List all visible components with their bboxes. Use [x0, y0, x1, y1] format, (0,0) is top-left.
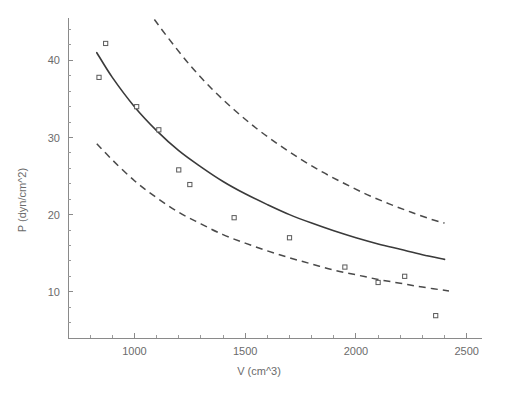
data-point-marker [287, 236, 291, 240]
scatter-plot-svg: 1000150020002500 10203040 V (cm^3) P (dy… [0, 0, 519, 404]
data-point-marker [403, 274, 407, 278]
plot-background [0, 0, 519, 404]
data-point-marker [188, 182, 192, 186]
y-tick-label: 10 [48, 286, 60, 298]
data-point-marker [343, 265, 347, 269]
data-point-marker [232, 216, 236, 220]
data-point-marker [97, 75, 101, 79]
x-tick-label: 2000 [344, 345, 368, 357]
y-tick-label: 30 [48, 132, 60, 144]
data-point-marker [104, 41, 108, 45]
x-tick-label: 1500 [233, 345, 257, 357]
y-tick-label: 20 [48, 209, 60, 221]
data-point-marker [434, 314, 438, 318]
y-axis-title: P (dyn/cm^2) [16, 168, 28, 232]
data-point-marker [177, 168, 181, 172]
data-point-marker [135, 105, 139, 109]
x-axis-title: V (cm^3) [237, 365, 281, 377]
y-tick-label: 40 [48, 54, 60, 66]
chart-container: 1000150020002500 10203040 V (cm^3) P (dy… [0, 0, 519, 404]
data-point-marker [157, 128, 161, 132]
data-point-marker [376, 280, 380, 284]
x-tick-label: 2500 [454, 345, 478, 357]
x-tick-label: 1000 [122, 345, 146, 357]
